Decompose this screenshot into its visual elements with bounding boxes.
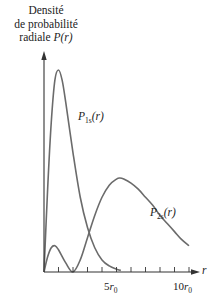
curve-p2s xyxy=(44,178,189,272)
y-axis-arrow-icon xyxy=(41,51,46,60)
label-p2s: P2s(r) xyxy=(150,206,176,221)
axes-group xyxy=(41,51,200,275)
curve-p1s xyxy=(44,70,121,272)
x-axis-ticks xyxy=(59,267,190,272)
x-axis-label: r xyxy=(202,264,206,276)
curves-group xyxy=(44,70,189,272)
tick-label-10r0: 10r0 xyxy=(173,280,192,295)
label-p1s: P1s(r) xyxy=(78,110,104,125)
x-axis-arrow-icon xyxy=(191,269,200,274)
plot-area xyxy=(0,0,210,300)
tick-label-5r0: 5r0 xyxy=(104,280,118,295)
